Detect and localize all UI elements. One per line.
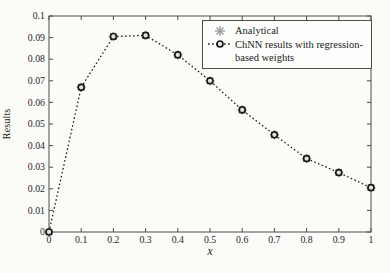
- circle-marker: [336, 170, 342, 176]
- y-tick-label: 0.04: [28, 140, 45, 151]
- circle-marker: [239, 107, 245, 113]
- x-tick-label: 0.2: [107, 234, 119, 245]
- dotted-line-circle-marker-icon: [208, 38, 235, 50]
- x-axis-title: x: [49, 245, 371, 257]
- y-tick-label: 0.06: [28, 97, 45, 108]
- circle-marker: [368, 185, 374, 191]
- circle-marker: [46, 229, 52, 235]
- circle-marker: [78, 84, 84, 90]
- circle-marker: [304, 156, 310, 162]
- legend-item-chnn-cont: based weights: [208, 51, 367, 65]
- y-tick-label: 0: [40, 226, 45, 237]
- legend-item-analytical: Analytical: [208, 24, 367, 38]
- y-tick-label: 0.05: [28, 118, 45, 129]
- x-tick-label: 0.4: [172, 234, 184, 245]
- x-tick-label: 0.7: [268, 234, 280, 245]
- chart-figure: 00.10.20.30.40.50.60.70.80.9100.010.020.…: [0, 0, 390, 273]
- y-tick-label: 0.08: [28, 53, 45, 64]
- y-tick-label: 0.1: [33, 10, 45, 21]
- circle-marker: [143, 32, 149, 38]
- circle-marker: [271, 132, 277, 138]
- legend-label-chnn-line1: ChNN results with regression-: [235, 38, 363, 52]
- legend-item-chnn: ChNN results with regression-: [208, 38, 367, 52]
- y-tick-label: 0.03: [28, 161, 45, 172]
- y-axis-title: Results: [1, 16, 17, 232]
- legend-label-chnn-line2: based weights: [235, 52, 294, 63]
- asterisk-marker-icon: [208, 25, 235, 37]
- x-tick-label: 1: [369, 234, 374, 245]
- x-tick-label: 0.9: [333, 234, 345, 245]
- y-tick-label: 0.01: [28, 205, 45, 216]
- circle-marker: [175, 52, 181, 58]
- y-tick-label: 0.02: [28, 183, 45, 194]
- circle-marker: [207, 78, 213, 84]
- x-tick-label: 0.6: [236, 234, 248, 245]
- legend: Analytical ChNN results with regression-…: [202, 20, 372, 69]
- x-tick-label: 0.8: [300, 234, 312, 245]
- x-tick-label: 0.5: [204, 234, 216, 245]
- y-tick-label: 0.07: [28, 75, 45, 86]
- y-tick-label: 0.09: [28, 32, 45, 43]
- circle-marker: [110, 34, 116, 40]
- legend-label-analytical: Analytical: [235, 24, 279, 38]
- x-tick-label: 0.3: [139, 234, 151, 245]
- x-tick-label: 0.1: [75, 234, 87, 245]
